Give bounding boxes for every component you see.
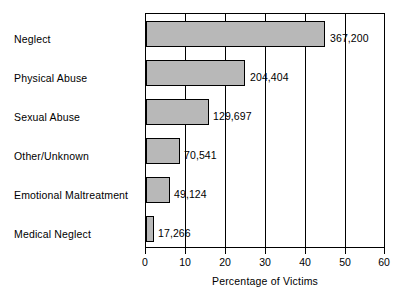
category-label-2: Sexual Abuse xyxy=(14,111,80,123)
tick-mark-20 xyxy=(225,248,226,254)
tick-mark-10 xyxy=(185,248,186,254)
tick-mark-30 xyxy=(265,248,266,254)
tick-mark-40 xyxy=(305,248,306,254)
category-label-5: Medical Neglect xyxy=(14,228,91,240)
value-label-3: 70,541 xyxy=(184,149,217,161)
category-label-3: Other/Unknown xyxy=(14,150,89,162)
x-axis-title: Percentage of Victims xyxy=(145,275,385,287)
category-label-4: Emotional Maltreatment xyxy=(14,189,128,201)
value-label-5: 17,266 xyxy=(158,227,191,239)
tick-label-20: 20 xyxy=(210,256,240,268)
bar-other-unknown xyxy=(146,138,180,164)
value-label-0: 367,200 xyxy=(330,32,369,44)
bar-chart: Neglect Physical Abuse Sexual Abuse Othe… xyxy=(0,0,401,296)
bar-sexual-abuse xyxy=(146,99,209,125)
value-label-2: 129,697 xyxy=(213,110,252,122)
bar-physical-abuse xyxy=(146,60,245,86)
value-label-1: 204,404 xyxy=(250,71,289,83)
tick-mark-0 xyxy=(145,248,146,254)
bar-emotional-maltreatment xyxy=(146,177,170,203)
tick-label-60: 60 xyxy=(369,256,399,268)
tick-label-0: 0 xyxy=(130,256,160,268)
tick-mark-50 xyxy=(345,248,346,254)
tick-label-40: 40 xyxy=(290,256,320,268)
tick-label-10: 10 xyxy=(170,256,200,268)
bar-medical-neglect xyxy=(146,216,154,242)
tick-label-50: 50 xyxy=(330,256,360,268)
category-label-0: Neglect xyxy=(14,33,51,45)
bar-row-3 xyxy=(146,138,384,164)
bar-row-2 xyxy=(146,99,384,125)
plot-area xyxy=(145,13,385,248)
value-label-4: 49,124 xyxy=(174,188,207,200)
category-label-1: Physical Abuse xyxy=(14,72,87,84)
tick-label-30: 30 xyxy=(250,256,280,268)
bar-neglect xyxy=(146,21,325,47)
bars-layer xyxy=(146,14,384,247)
tick-mark-60 xyxy=(384,248,385,254)
